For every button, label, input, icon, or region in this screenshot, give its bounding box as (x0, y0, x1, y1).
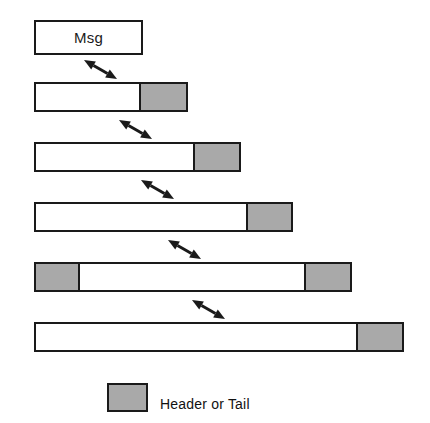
layer-5-header-segment (356, 324, 402, 350)
layer-3-header-segment (246, 204, 291, 230)
layer-2-header-segment (193, 144, 239, 170)
encapsulation-arrow-5 (186, 294, 231, 325)
encapsulation-arrow-4 (162, 234, 207, 265)
encapsulation-diagram: Msg Header or Tail (0, 0, 430, 423)
layer-2-frame (34, 142, 241, 172)
layer-5-frame (34, 322, 404, 352)
legend-label: Header or Tail (160, 397, 250, 411)
layer-4-header-segment (36, 264, 80, 290)
legend-swatch (107, 383, 148, 412)
layer-1-header-segment (139, 84, 186, 110)
encapsulation-arrow-3 (135, 174, 180, 205)
layer-4-frame (34, 262, 352, 292)
message-box: Msg (34, 20, 143, 55)
message-box-label: Msg (74, 30, 103, 45)
layer-3-frame (34, 202, 293, 232)
layer-1-frame (34, 82, 188, 112)
layer-4-tail-segment (304, 264, 350, 290)
encapsulation-arrow-2 (113, 114, 158, 145)
encapsulation-arrow-1 (78, 54, 123, 85)
